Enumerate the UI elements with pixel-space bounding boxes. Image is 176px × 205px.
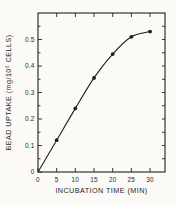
data-point-marker	[111, 52, 115, 56]
x-tick-label: 20	[109, 176, 117, 183]
y-tick-label: 0.5	[25, 36, 35, 43]
figure-panel: 05101520253000.10.20.30.40.5 INCUBATION …	[0, 0, 176, 205]
y-tick-label: 0.4	[25, 62, 35, 69]
x-tick-label: 0	[36, 176, 40, 183]
data-point-marker	[129, 35, 133, 39]
uptake-curve	[38, 32, 150, 173]
axis-ticks	[38, 13, 165, 172]
line-chart: 05101520253000.10.20.30.40.5 INCUBATION …	[0, 0, 176, 205]
data-point-marker	[55, 138, 59, 142]
y-tick-label: 0	[31, 168, 35, 175]
data-point-marker	[148, 30, 152, 34]
y-tick-label: 0.2	[25, 115, 35, 122]
x-tick-label: 15	[90, 176, 98, 183]
x-tick-label: 10	[72, 176, 80, 183]
y-tick-label: 0.3	[25, 89, 35, 96]
data-point-marker	[92, 76, 96, 80]
x-tick-label: 25	[128, 176, 136, 183]
y-axis-title: BEAD UPTAKE (mg/10⁶ CELLS)	[4, 35, 13, 151]
x-axis-title: INCUBATION TIME (MIN)	[55, 186, 147, 195]
data-point-marker	[73, 107, 77, 111]
x-tick-label: 30	[146, 176, 154, 183]
y-tick-label: 0.1	[25, 142, 35, 149]
data-series	[38, 30, 152, 172]
x-tick-label: 5	[55, 176, 59, 183]
plot-frame	[38, 13, 165, 172]
